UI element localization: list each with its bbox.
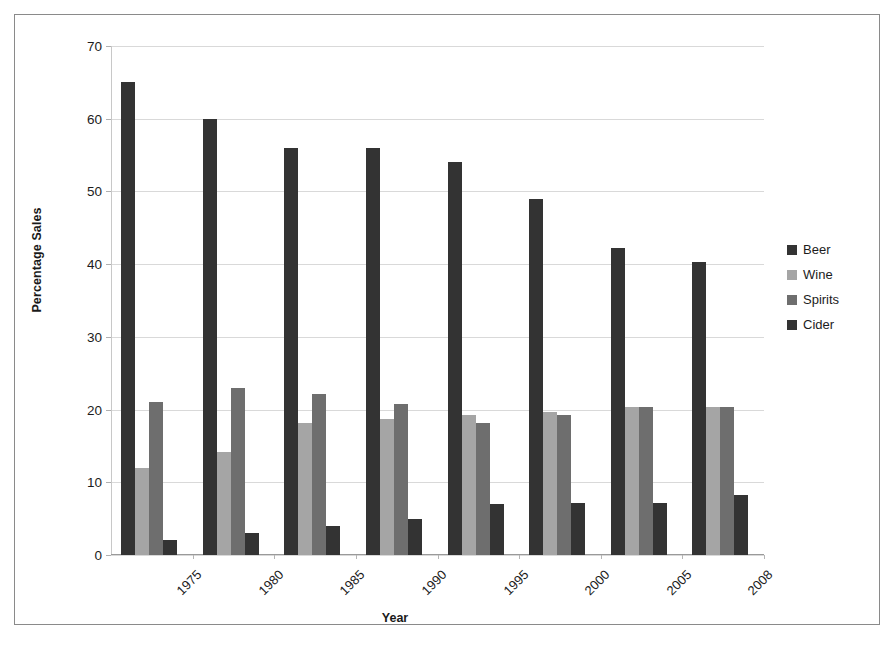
bar[interactable] [571,503,585,555]
bar[interactable] [149,402,163,555]
bar-group [611,46,667,555]
bar[interactable] [231,388,245,555]
bar[interactable] [476,423,490,555]
bar-group [121,46,177,555]
y-tick-label: 40 [87,257,102,272]
bar[interactable] [121,82,135,555]
legend-label: Wine [803,267,833,282]
x-tick-mark [438,555,439,559]
bar[interactable] [529,199,543,555]
bar[interactable] [639,407,653,555]
y-axis-title: Percentage Sales [30,180,44,340]
bar[interactable] [692,262,706,555]
x-tick-label: 2005 [663,567,694,598]
y-tick-label: 20 [87,402,102,417]
legend-swatch-icon [787,320,797,330]
legend-swatch-icon [787,270,797,280]
x-tick-label: 1975 [173,567,204,598]
bar-group [366,46,422,555]
bar[interactable] [720,407,734,555]
bar[interactable] [135,468,149,555]
bar[interactable] [298,423,312,555]
x-tick-mark [193,555,194,559]
legend-label: Beer [803,242,830,257]
x-tick-label: 1990 [418,567,449,598]
legend-swatch-icon [787,295,797,305]
bar[interactable] [543,412,557,555]
bar[interactable] [448,162,462,555]
bar[interactable] [394,404,408,555]
y-tick-label: 50 [87,184,102,199]
bar[interactable] [380,419,394,555]
bars-layer [111,46,764,555]
bar[interactable] [734,495,748,555]
legend-item[interactable]: Wine [787,262,877,287]
bar-group [692,46,748,555]
x-tick-mark [764,555,765,559]
bar[interactable] [557,415,571,555]
bar-chart: Percentage Sales Year 010203040506070 19… [15,15,881,626]
bar[interactable] [326,526,340,555]
x-tick-mark [356,555,357,559]
bar[interactable] [312,394,326,555]
y-tick-label: 60 [87,111,102,126]
bar[interactable] [490,504,504,555]
x-tick-mark [274,555,275,559]
bar[interactable] [408,519,422,555]
bar[interactable] [284,148,298,555]
bar[interactable] [653,503,667,555]
bar[interactable] [245,533,259,555]
chart-legend: BeerWineSpiritsCider [787,237,877,337]
x-tick-mark [519,555,520,559]
legend-label: Cider [803,317,834,332]
x-tick-label: 2008 [745,567,776,598]
plot-area: 010203040506070 197519801985199019952000… [111,46,764,555]
x-tick-label: 1995 [500,567,531,598]
figure-frame: Percentage Sales Year 010203040506070 19… [14,14,880,625]
legend-item[interactable]: Beer [787,237,877,262]
bar-group [529,46,585,555]
x-tick-label: 1980 [255,567,286,598]
bar[interactable] [217,452,231,555]
y-tick-label: 70 [87,39,102,54]
bar[interactable] [203,119,217,555]
bar[interactable] [462,415,476,555]
legend-swatch-icon [787,245,797,255]
legend-item[interactable]: Spirits [787,287,877,312]
bar[interactable] [706,407,720,555]
y-tick-label: 10 [87,475,102,490]
x-axis-title: Year [15,611,775,625]
bar[interactable] [611,248,625,555]
bar[interactable] [163,540,177,555]
x-tick-mark [682,555,683,559]
x-tick-label: 1985 [337,567,368,598]
x-tick-mark [601,555,602,559]
y-tick-mark [106,555,111,556]
y-tick-label: 30 [87,329,102,344]
bar-group [284,46,340,555]
x-tick-label: 2000 [582,567,613,598]
bar[interactable] [366,148,380,555]
bar[interactable] [625,407,639,555]
legend-item[interactable]: Cider [787,312,877,337]
bar-group [448,46,504,555]
legend-label: Spirits [803,292,839,307]
bar-group [203,46,259,555]
y-tick-label: 0 [94,548,102,563]
